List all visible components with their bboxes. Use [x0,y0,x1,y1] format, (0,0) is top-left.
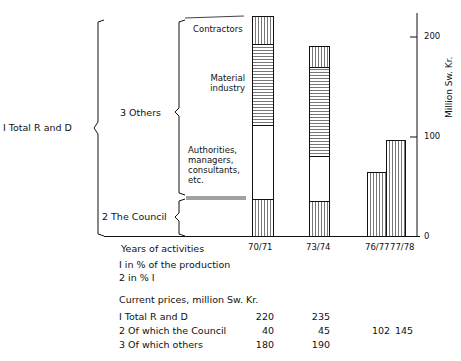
table-cell: 220 [240,311,274,322]
row-pct-production: I in % of the production [119,259,230,270]
bar-70-71 [252,16,274,237]
table-cell: 45 [296,325,330,336]
brace-total [94,20,104,236]
category-73-74: 73/74 [306,242,331,253]
table-cell: 190 [296,339,330,350]
current-prices-label: Current prices, million Sw. Kr. [119,294,258,305]
seg-material-industry [310,67,329,156]
brace-council [175,199,185,236]
category-70-71: 70/71 [248,242,273,253]
years-of-activities-label: Years of activities [121,243,204,254]
row-pct-of-1: 2 in % I [119,272,155,283]
seg-contractors [253,17,273,44]
seg-authorities [310,156,329,201]
brace-others [175,20,185,195]
seg-material-industry [253,44,273,125]
bar-76-77 [367,172,387,237]
label-total-r-and-d: I Total R and D [3,122,72,133]
seg-contractors [310,47,329,67]
tick-200: 200 [424,31,440,42]
table-cell: 40 [240,325,274,336]
label-etc: etc. [188,175,204,186]
bar-73-74 [309,46,330,237]
label-others: 3 Others [120,107,161,118]
table-row-label: 3 Of which others [119,339,203,350]
table-cell: 180 [240,339,274,350]
category-76-77: 76/77 [365,242,390,253]
label-industry: industry [200,83,245,94]
table-row-label: 2 Of which the Council [119,325,226,336]
category-77-78: 77/78 [390,242,415,253]
bar-77-78 [386,140,406,237]
table-cell: 102 [372,325,390,336]
seg-authorities [253,125,273,199]
table-cell: 235 [296,311,330,322]
table-row-label: I Total R and D [119,311,188,322]
seg-council [310,201,329,236]
tick-100: 100 [424,131,440,142]
y-axis-label: Million Sw. Kr. [444,57,454,118]
label-the-council: 2 The Council [102,211,167,222]
label-contractors: Contractors [193,24,243,35]
table-cell: 145 [395,325,413,336]
seg-council [253,199,273,236]
tick-0: 0 [424,231,429,242]
